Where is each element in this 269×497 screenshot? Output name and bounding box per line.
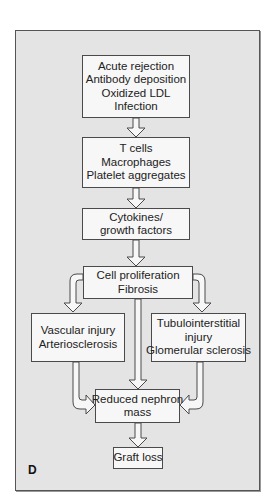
node-tubular-line-1: Tubulointerstitial	[157, 317, 240, 330]
node-graft-line-1: Graft loss	[113, 451, 162, 464]
node-causes-line-3: Oxidized LDL	[101, 87, 170, 100]
arrow-proliferation-to-nephron	[129, 299, 147, 389]
node-cells-line-1: T cells	[119, 142, 152, 155]
arrow-nephron-to-graft	[129, 423, 147, 447]
node-cytokines: Cytokines/ growth factors	[82, 208, 190, 240]
node-causes: Acute rejection Antibody deposition Oxid…	[82, 55, 190, 118]
arrow-vascular-to-nephron	[73, 362, 95, 414]
node-proliferation-line-1: Cell proliferation	[96, 269, 179, 282]
node-cells-line-3: Platelet aggregates	[86, 169, 185, 182]
node-causes-line-1: Acute rejection	[98, 60, 174, 73]
node-tubular: Tubulointerstitial injury Glomerular scl…	[151, 313, 246, 362]
arrow-causes-to-cells	[127, 118, 145, 137]
node-vascular-line-2: Arteriosclerosis	[39, 338, 118, 351]
panel-label: D	[28, 463, 37, 477]
node-causes-line-4: Infection	[114, 100, 157, 113]
node-tubular-line-3: Glomerular sclerosis	[146, 344, 251, 357]
node-vascular: Vascular injury Arteriosclerosis	[31, 313, 125, 362]
arrow-cells-to-cytokines	[127, 188, 145, 208]
node-cytokines-line-1: Cytokines/	[109, 211, 163, 224]
node-cytokines-line-2: growth factors	[100, 224, 172, 237]
node-vascular-line-1: Vascular injury	[41, 324, 116, 337]
node-nephron-line-2: mass	[124, 406, 151, 419]
arrow-proliferation-to-tubular	[193, 274, 211, 312]
arrow-proliferation-to-vascular	[64, 274, 83, 312]
node-proliferation-line-2: Fibrosis	[118, 283, 158, 296]
node-cells: T cells Macrophages Platelet aggregates	[82, 137, 190, 188]
node-tubular-line-2: injury	[185, 331, 212, 344]
node-nephron-line-1: Reduced nephron	[92, 393, 183, 406]
node-graft: Graft loss	[113, 447, 163, 469]
node-cells-line-2: Macrophages	[101, 156, 171, 169]
node-nephron: Reduced nephron mass	[95, 389, 180, 423]
arrow-cytokines-to-proliferation	[127, 240, 145, 266]
node-proliferation: Cell proliferation Fibrosis	[83, 266, 193, 299]
node-causes-line-2: Antibody deposition	[86, 73, 186, 86]
arrow-tubular-to-nephron	[180, 362, 203, 414]
